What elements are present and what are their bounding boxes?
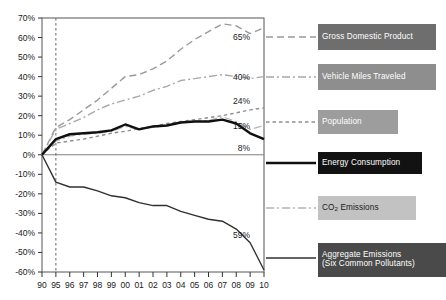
x-tick-label: 00	[121, 280, 131, 290]
legend-label-co2: CO2 Emissions	[322, 204, 379, 213]
data-label-co2: 15%	[233, 121, 250, 131]
y-tick-label: -60%	[15, 267, 35, 277]
y-tick-label: 20%	[18, 111, 35, 121]
x-tick-label: 04	[176, 280, 186, 290]
y-tick-label: -50%	[15, 247, 35, 257]
plot-frame	[42, 18, 264, 272]
legend-label-aggregate: Aggregate Emissions(Six Common Pollutant…	[322, 251, 415, 269]
x-tick-label: 98	[93, 280, 103, 290]
data-label-vmt: 40%	[233, 72, 250, 82]
data-label-aggregate: 59%	[233, 230, 250, 240]
x-tick-label: 97	[79, 280, 89, 290]
x-tick-label: 09	[245, 280, 255, 290]
x-tick-label: 95	[51, 280, 61, 290]
x-tick-label: 06	[204, 280, 214, 290]
data-label-energy: 8%	[238, 143, 251, 153]
y-tick-label: 0%	[23, 150, 36, 160]
y-tick-label: -10%	[15, 169, 35, 179]
x-tick-label: 01	[134, 280, 144, 290]
y-tick-label: 40%	[18, 72, 35, 82]
data-label-population: 24%	[233, 96, 250, 106]
x-tick-label: 05	[190, 280, 200, 290]
y-tick-label: -20%	[15, 189, 35, 199]
y-tick-label: 60%	[18, 33, 35, 43]
legend-item-energy[interactable]: Energy Consumption	[318, 152, 422, 174]
y-tick-label: 10%	[18, 130, 35, 140]
y-tick-label: 30%	[18, 91, 35, 101]
x-tick-label: 10	[259, 280, 269, 290]
legend-item-co2[interactable]: CO2 Emissions	[318, 196, 416, 220]
data-label-gdp: 65%	[233, 32, 250, 42]
y-tick-label: -40%	[15, 228, 35, 238]
legend-label-population: Population	[322, 118, 362, 127]
y-tick-label: 70%	[18, 13, 35, 23]
x-tick-label: 02	[148, 280, 158, 290]
x-tick-label: 96	[65, 280, 75, 290]
x-tick-label: 07	[218, 280, 228, 290]
legend-label-energy: Energy Consumption	[322, 159, 400, 168]
y-tick-label: 50%	[18, 52, 35, 62]
x-tick-label: 08	[232, 280, 242, 290]
legend-label-vmt: Vehicle Miles Traveled	[322, 73, 406, 82]
legend-item-aggregate[interactable]: Aggregate Emissions(Six Common Pollutant…	[318, 243, 446, 277]
legend-label-gdp: Gross Domestic Product	[322, 33, 413, 42]
legend-item-gdp[interactable]: Gross Domestic Product	[318, 24, 436, 50]
y-tick-label: -30%	[15, 208, 35, 218]
x-tick-label: 03	[162, 280, 172, 290]
legend-item-vmt[interactable]: Vehicle Miles Traveled	[318, 64, 436, 90]
legend-item-population[interactable]: Population	[318, 110, 398, 134]
x-tick-label: 99	[107, 280, 117, 290]
x-tick-label: 90	[37, 280, 47, 290]
